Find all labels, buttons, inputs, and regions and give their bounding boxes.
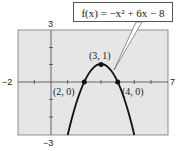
- plot-area: [18, 30, 168, 135]
- equation-callout: f(x) = −x² + 6x − 8: [73, 2, 173, 22]
- zero-label-2: (2, 0): [53, 86, 75, 98]
- zero-point-2: [82, 80, 87, 85]
- zero-point-4: [115, 80, 120, 85]
- x-max-label: 7: [170, 77, 175, 87]
- y-max-label: 3: [48, 19, 53, 29]
- vertex-label: (3, 1): [89, 50, 111, 62]
- zero-label-4: (4, 0): [122, 86, 144, 98]
- x-min-label: −2: [2, 77, 12, 87]
- y-min-label: −3: [43, 138, 53, 148]
- vertex-point: [99, 62, 104, 67]
